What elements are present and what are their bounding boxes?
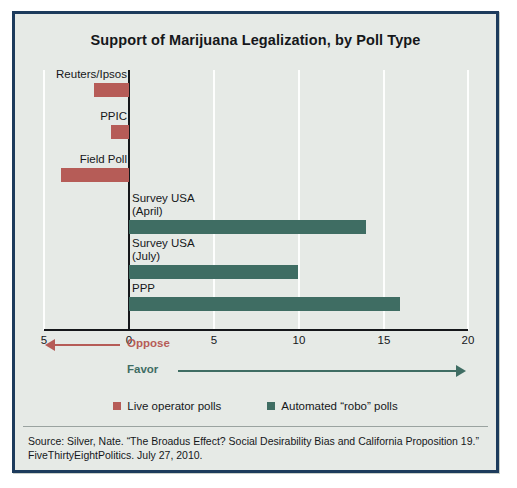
bar-reuters-ipsos [94,83,129,97]
bar-label-ppic: PPIC [100,110,127,123]
source-divider [23,426,488,427]
legend-item-live-operator: Live operator polls [113,400,221,412]
direction-annotations: Oppose Favor [15,334,496,390]
bar-label-survey-usa-july: Survey USA (July) [132,237,195,262]
oppose-label: Oppose [127,337,170,349]
legend-swatch-live-operator [113,402,121,410]
plot-area: Reuters/Ipsos PPIC Field Poll Survey USA… [15,60,496,330]
oppose-arrow-icon [45,339,55,351]
legend-label-automated-robo: Automated “robo” polls [281,400,397,412]
legend-label-live-operator: Live operator polls [127,400,221,412]
bar-survey-usa-july [129,265,298,279]
bar-row-survey-usa-july: Survey USA (July) [15,237,496,281]
bar-label-ppp: PPP [132,282,155,295]
favor-arrow-icon [456,365,466,377]
favor-annotation: Favor [15,360,496,384]
source-citation: Source: Silver, Nate. “The Broadus Effec… [28,434,486,462]
source-line-2: FiveThirtyEightPolitics. July 27, 2010. [28,448,486,462]
bar-label-survey-usa-april: Survey USA (April) [132,192,195,217]
source-line-1: Source: Silver, Nate. “The Broadus Effec… [28,434,486,448]
chart-title: Support of Marijuana Legalization, by Po… [15,32,496,48]
chart-figure: Support of Marijuana Legalization, by Po… [12,11,499,473]
legend-item-automated-robo: Automated “robo” polls [267,400,397,412]
bar-survey-usa-april [129,220,366,234]
bar-row-ppic: PPIC [15,110,496,154]
bar-row-field-poll: Field Poll [15,153,496,197]
bar-row-reuters-ipsos: Reuters/Ipsos [15,68,496,112]
oppose-annotation: Oppose [15,334,496,358]
bar-ppp [129,297,400,311]
bar-label-reuters-ipsos: Reuters/Ipsos [56,68,127,81]
x-axis-line [44,329,468,331]
favor-label: Favor [127,363,158,375]
oppose-arrow-line [55,344,120,346]
bar-label-field-poll: Field Poll [80,153,127,166]
chart-legend: Live operator polls Automated “robo” pol… [15,396,496,416]
favor-arrow-line [178,370,456,372]
bar-row-survey-usa-april: Survey USA (April) [15,192,496,236]
bar-ppic [111,125,129,139]
bar-row-ppp: PPP [15,282,496,326]
bar-field-poll [61,168,129,182]
legend-swatch-automated-robo [267,402,275,410]
